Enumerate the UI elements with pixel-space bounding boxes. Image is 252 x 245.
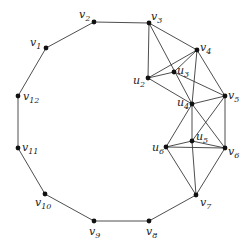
vertex-v5 — [223, 94, 228, 99]
vertex-label-u4: u4 — [177, 96, 189, 111]
vertex-u6 — [164, 145, 169, 150]
vertex-v4 — [195, 48, 200, 53]
edge-u6-v6 — [166, 147, 225, 148]
vertex-label-v4: v4 — [200, 41, 211, 56]
vertex-u2 — [146, 76, 151, 81]
vertex-v6 — [223, 146, 228, 151]
edge-v6-v7 — [196, 148, 225, 195]
vertex-u3 — [172, 70, 177, 75]
vertex-v11 — [16, 146, 21, 151]
edges-layer — [18, 22, 225, 221]
vertex-v7 — [194, 193, 199, 198]
vertex-label-u2: u2 — [133, 74, 145, 89]
vertex-u5 — [190, 139, 195, 144]
edge-u5-v7 — [192, 141, 196, 195]
edge-v7-v8 — [149, 195, 196, 221]
vertex-v12 — [16, 94, 21, 99]
vertex-v1 — [44, 46, 49, 51]
vertex-label-v2: v2 — [79, 8, 90, 23]
vertex-v10 — [43, 192, 48, 197]
edge-u6-v7 — [166, 147, 196, 195]
vertex-label-u6: u6 — [152, 141, 164, 156]
vertex-label-v8: v8 — [146, 225, 157, 240]
edge-u6-u5 — [166, 141, 192, 147]
vertex-v2 — [92, 20, 97, 25]
vertices-layer — [16, 20, 228, 224]
vertex-label-v11: v11 — [22, 141, 38, 156]
vertex-label-u3: u3 — [177, 64, 189, 79]
vertex-label-v10: v10 — [35, 196, 51, 211]
edge-v2-v3 — [94, 22, 149, 23]
vertex-label-v9: v9 — [89, 225, 100, 240]
vertex-v9 — [92, 219, 97, 224]
vertex-label-v5: v5 — [228, 89, 239, 104]
edge-v3-u2 — [148, 23, 149, 78]
vertex-label-v12: v12 — [23, 90, 39, 105]
vertex-label-u5: u5 — [196, 130, 208, 145]
vertex-v8 — [147, 219, 152, 224]
vertex-u4 — [190, 102, 195, 107]
edge-v12-v1 — [18, 48, 46, 96]
edge-v4-u4 — [192, 50, 197, 104]
vertex-label-v1: v1 — [30, 36, 41, 51]
vertex-label-v3: v3 — [151, 10, 162, 25]
edge-v9-v10 — [45, 194, 94, 221]
vertex-label-v7: v7 — [200, 196, 212, 211]
vertex-label-v6: v6 — [228, 145, 239, 160]
edge-v1-v2 — [46, 22, 94, 48]
graph-diagram: v1v2v3v4v5v6v7v8v9v10v11v12u2u3u4u5u6 — [0, 0, 252, 245]
edge-u2-u3 — [148, 72, 174, 78]
